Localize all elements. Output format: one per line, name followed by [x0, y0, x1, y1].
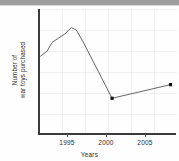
data-series-layer — [0, 0, 179, 161]
data-point-marker — [110, 97, 113, 100]
series-line-war-toys — [41, 28, 171, 99]
data-point-marker — [169, 83, 172, 86]
chart-figure: 1995 2000 2005 Years Number of war toys … — [0, 0, 179, 161]
